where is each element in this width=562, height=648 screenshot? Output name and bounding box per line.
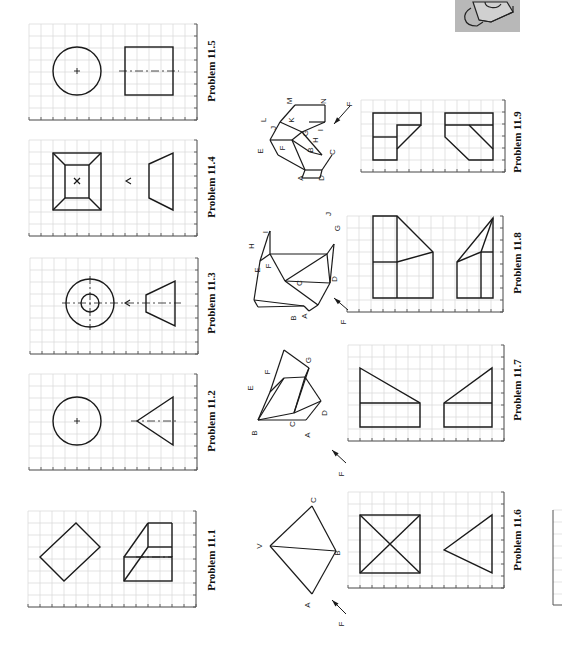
edge-line — [397, 252, 433, 262]
problem-title: Problem 11.5 — [205, 40, 217, 102]
vertex-label: G — [333, 225, 342, 231]
vertex-label: A — [303, 432, 312, 438]
pictorial-edge — [284, 377, 305, 378]
vertex-label: C — [295, 280, 304, 286]
grid-panel-11-2 — [29, 374, 197, 470]
vertex-label: B — [333, 550, 342, 555]
pictorial-edge — [258, 413, 294, 420]
front-label: F — [337, 471, 346, 476]
problem-title: Problem 11.1 — [205, 529, 217, 591]
pictorial-edge — [260, 236, 268, 261]
11.9-pictorial: MNLJKGIHEFBCADF — [256, 97, 354, 181]
vertex-label: H — [247, 243, 256, 249]
pictorial-edge — [322, 155, 332, 170]
vertex-label: F — [263, 369, 272, 374]
pictorial-edge — [254, 300, 258, 307]
vertex-label: I — [316, 129, 325, 131]
vertex-label: F — [264, 263, 273, 268]
vertex-label: I — [261, 231, 270, 233]
11.6-pictorial: VCBAF — [255, 497, 346, 627]
pictorial-edge — [270, 506, 312, 546]
vertex-label: A — [300, 313, 309, 319]
vertex-label: D — [330, 276, 339, 282]
vertex-label: B — [250, 430, 259, 435]
vertex-label: C — [288, 421, 297, 427]
pictorial-edge — [278, 155, 305, 170]
front-label: F — [339, 319, 348, 324]
drawing-canvas: MNLJKGIHEFBCADFHIEFCJGBADFEFGCBADFVCBAF … — [0, 0, 562, 648]
vertex-label: K — [287, 117, 296, 123]
pictorial-edge — [254, 261, 260, 300]
vertex-label: M — [285, 97, 294, 104]
vertex-label: B — [306, 147, 315, 152]
pictorial-edge — [258, 378, 284, 420]
problem-labels: Problem 11.5Problem 11.4Problem 11.3Prob… — [205, 40, 523, 591]
vertex-label: L — [259, 117, 268, 122]
grid-panel-11-1 — [28, 511, 196, 607]
problem-11-7-views — [360, 368, 492, 427]
edge-line — [53, 153, 65, 165]
grid-panel-11-9 — [361, 100, 505, 172]
pictorial-edge — [309, 305, 318, 311]
vertex-label: B — [289, 315, 298, 320]
pictorial-edge — [312, 551, 336, 594]
textbook-page: MNLJKGIHEFBCADFHIEFCJGBADFEFGCBADFVCBAF … — [0, 0, 562, 648]
pictorial-edge — [270, 546, 312, 594]
view-arrow-icon — [126, 178, 131, 184]
pictorial-edge — [270, 546, 336, 551]
11.7-pictorial: EFGCBADF — [246, 350, 346, 476]
problem-title: Problem 11.3 — [205, 272, 217, 334]
polygon-view — [360, 368, 420, 427]
pictorial-edge — [258, 392, 270, 420]
vertex-label: C — [309, 497, 318, 503]
vertex-label: E — [256, 148, 265, 153]
pictorial-edge — [304, 306, 309, 311]
11.8-pictorial: HIEFCJGBADF — [247, 212, 348, 324]
vertex-label: H — [311, 137, 320, 143]
problem-title: Problem 11.6 — [511, 509, 523, 571]
orthographic-views — [40, 47, 493, 581]
vertex-label: D — [317, 175, 326, 181]
problem-title: Problem 11.2 — [205, 390, 217, 452]
pictorial-edge — [305, 377, 321, 401]
grid-panel-11-5 — [29, 24, 197, 120]
pictorial-edge — [258, 306, 304, 307]
pictorial-edge — [312, 506, 336, 551]
vertex-label: N — [319, 98, 328, 104]
pictorial-edge — [270, 122, 280, 140]
isometric-part-thumbnail — [455, 0, 520, 32]
problem-title: Problem 11.7 — [511, 359, 523, 421]
problem-11-5-views — [53, 47, 179, 95]
vertex-label: F — [278, 145, 287, 150]
pictorial-edge — [294, 368, 309, 413]
pictorial-edge — [270, 140, 278, 155]
vertex-label: G — [304, 357, 313, 363]
vertex-label: D — [320, 410, 329, 416]
pictorial-edge — [318, 283, 330, 305]
vertex-label: A — [303, 602, 312, 608]
vertex-label: J — [269, 126, 278, 130]
problem-title: Problem 11.9 — [511, 111, 523, 173]
front-label: F — [337, 621, 346, 626]
vertex-label: J — [324, 212, 333, 216]
vertex-label: G — [301, 130, 310, 136]
edge-line — [89, 153, 101, 165]
vertex-label: V — [255, 543, 264, 549]
partial-grid-panel — [553, 510, 562, 605]
vertex-label: A — [296, 175, 305, 181]
pictorial-edge — [285, 281, 330, 283]
problem-title: Problem 11.4 — [205, 156, 217, 218]
vertex-label: E — [246, 385, 255, 390]
pictorial-drawings: MNLJKGIHEFBCADFHIEFCJGBADFEFGCBADFVCBAF — [246, 97, 354, 626]
problem-11-2-views — [53, 397, 179, 445]
vertex-label: E — [253, 267, 262, 272]
front-label: F — [345, 101, 354, 106]
pictorial-edge — [254, 300, 304, 306]
problem-title: Problem 11.8 — [511, 232, 523, 294]
problem-11-3-views — [62, 276, 181, 330]
pictorial-edge — [285, 254, 327, 281]
polygon-view — [40, 523, 100, 581]
vertex-label: C — [328, 149, 337, 155]
polygon-view — [457, 218, 493, 298]
problem-11-1-views — [40, 523, 172, 581]
